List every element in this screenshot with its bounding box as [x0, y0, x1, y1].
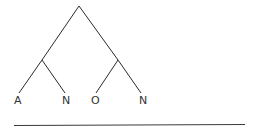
leaf-label-4: N — [139, 94, 147, 107]
edge-right-n — [118, 60, 141, 93]
edge-left-a — [19, 60, 42, 93]
leaf-label-1: A — [14, 94, 22, 107]
edge-root-right — [79, 6, 118, 60]
edge-left-n — [42, 60, 65, 93]
tree-diagram: A N O N — [0, 0, 253, 138]
edge-root-left — [42, 6, 79, 60]
leaf-label-2: N — [62, 94, 70, 107]
tree-leaves: A N O N — [14, 94, 147, 107]
leaf-label-3: O — [91, 94, 100, 107]
horizontal-rule — [14, 125, 245, 126]
tree-edges — [19, 6, 141, 93]
edge-right-o — [96, 60, 118, 93]
